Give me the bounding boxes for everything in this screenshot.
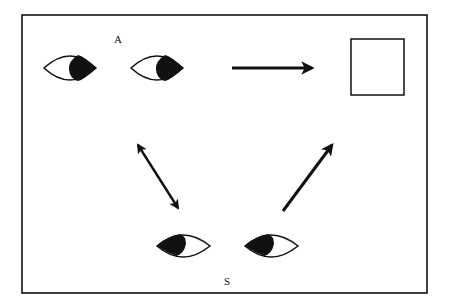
agent-left-eye-icon: [44, 55, 96, 81]
arrow-agent-subject-mutual: [138, 145, 178, 208]
diagram-canvas: A S: [0, 0, 449, 306]
subject-label: S: [224, 275, 230, 287]
subject-right-eye-icon: [245, 234, 298, 257]
target-object-square: [351, 39, 404, 95]
agent-label: A: [114, 33, 122, 45]
agent-right-eye-icon: [131, 55, 183, 81]
arrow-subject-to-object: [283, 145, 332, 211]
subject-left-eye-icon: [157, 234, 210, 257]
